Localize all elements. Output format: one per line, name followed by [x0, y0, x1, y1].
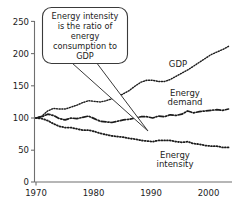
x-tick-label-1980: 1980 — [83, 188, 105, 198]
callout-pointer — [72, 62, 148, 131]
series-label-energy-intensity-line2: intensity — [157, 159, 194, 169]
x-axis-ticks: 1970 1980 1990 2000 — [25, 182, 219, 198]
energy-intensity-callout: Energy intensity is the ratio of energy … — [43, 8, 128, 64]
y-tick-label-0: 0 — [24, 177, 29, 187]
callout-line-4: consumption to — [53, 41, 117, 51]
y-tick-label-200: 200 — [13, 49, 29, 59]
y-tick-label-150: 150 — [13, 81, 29, 91]
x-tick-label-1990: 1990 — [140, 188, 162, 198]
callout-line-2: is the ratio of — [58, 21, 114, 31]
chart-plot-area: 250 200 150 100 50 0 1970 1980 1990 2000 — [0, 0, 237, 207]
series-line-energy-intensity — [36, 118, 229, 147]
x-tick-label-1970: 1970 — [25, 188, 47, 198]
y-tick-label-100: 100 — [13, 113, 29, 123]
callout-line-5: GDP — [76, 51, 94, 61]
series-label-energy-demand-line2: demand — [168, 97, 203, 107]
series-label-gdp: GDP — [169, 59, 187, 69]
energy-intensity-chart: 250 200 150 100 50 0 1970 1980 1990 2000 — [0, 0, 237, 207]
callout-line-3: energy — [71, 31, 100, 41]
x-tick-label-2000: 2000 — [198, 188, 220, 198]
y-tick-label-250: 250 — [13, 17, 29, 27]
callout-line-1: Energy intensity — [52, 11, 119, 21]
y-tick-label-50: 50 — [18, 145, 29, 155]
y-axis-ticks: 250 200 150 100 50 0 — [13, 17, 35, 188]
